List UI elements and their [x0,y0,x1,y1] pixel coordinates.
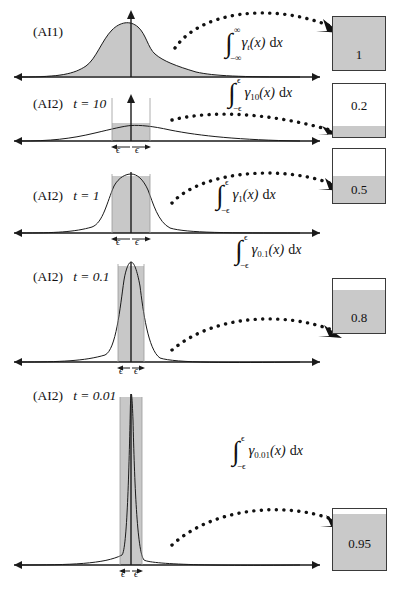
x-axis-left-arrow-ai1 [14,73,22,81]
eps-label-right-t001: ϵ [134,568,138,579]
x-axis-right-arrow-t001 [312,561,320,569]
integral-sign-group-t1: ∫ ϵ −ϵ [216,182,223,209]
panel-label-ai2-t1: (AI2) t = 1 [33,188,100,204]
eps-label-right-t01: ϵ [134,365,138,376]
differential-t01: dx [288,242,301,257]
value-box-ai1: 1 [332,16,386,71]
integral-upper-limit-t10: ϵ [237,75,241,85]
eps-measure-right-arrowhead-t01 [139,366,145,371]
panel-label-prefix-t01: (AI2) [33,269,63,284]
integrand-arg-t10: (x) [259,85,275,100]
y-axis-arrow-ai1 [127,10,135,19]
x-axis-right-arrow-ai1 [312,73,320,81]
integral-lower-limit-t01: −ϵ [240,260,249,270]
value-text-t001: 0.95 [333,536,386,552]
pointer-arc-t001 [172,510,334,545]
integrand-subscript-t01: 0.1 [257,249,268,259]
x-axis-left-arrow-t1 [14,229,22,237]
x-axis-right-arrow-t1 [312,229,320,237]
integral-expression-ai1: ∫ ∞ −∞ γt(x) dx [225,30,283,57]
integral-expression-t001: ∫ ϵ −ϵ γ0.01(x) dx [232,438,303,465]
integral-sign-group-t001: ∫ ϵ −ϵ [232,438,239,465]
eps-label-right-t1: ϵ [135,236,139,247]
differential-t001: dx [290,443,303,458]
figure-canvas: (AI1) ∫ ∞ −∞ γt(x) dx [0,0,395,590]
integral-upper-limit-t001: ϵ [241,433,245,443]
eps-label-left-t1: ϵ [116,236,120,247]
integrand-arg-t1: (x) [243,187,259,202]
panel-label-t-t01: t = 0.1 [73,269,110,284]
value-text-t01: 0.8 [333,310,385,326]
integral-sign-group-t01: ∫ ϵ −ϵ [235,237,242,264]
value-box-t01: 0.8 [332,278,386,334]
integral-lower-limit-t1: −ϵ [221,205,230,215]
integral-sign-group-ai1: ∫ ∞ −∞ [225,30,232,57]
panel-label-ai2-t01: (AI2) t = 0.1 [33,269,110,285]
integral-expression-t1: ∫ ϵ −ϵ γ1(x) dx [216,182,276,209]
panel-label-ai1: (AI1) [33,24,63,40]
differential-t1: dx [262,187,275,202]
panel-label-prefix-ai1: (AI1) [33,24,63,39]
density-curve-t001 [20,394,300,565]
x-axis-left-arrow-t01 [14,358,22,366]
panel-label-ai2-t001: (AI2) t = 0.01 [33,388,116,404]
differential-ai1: dx [269,35,282,50]
value-box-t001: 0.95 [332,508,387,571]
panel-label-t-t10: t = 10 [73,96,106,111]
x-axis-left-arrow-t10 [14,137,22,145]
x-axis-right-arrow-t01 [312,358,320,366]
pointer-arc-t10 [172,114,330,130]
density-curve-t10 [20,125,300,141]
integral-lower-limit-ai1: −∞ [230,53,242,63]
integrand-arg-t001: (x) [270,443,286,458]
pointer-arc-t01 [172,319,332,350]
integral-upper-limit-ai1: ∞ [234,25,240,35]
eps-label-left-t01: ϵ [119,365,123,376]
integrand-subscript-t10: 10 [250,92,259,102]
integral-lower-limit-t001: −ϵ [237,461,246,471]
integrand-subscript-t001: 0.01 [254,450,270,460]
panel-label-prefix-t1: (AI2) [33,188,63,203]
x-axis-right-arrow-t10 [312,137,320,145]
integral-expression-t01: ∫ ϵ −ϵ γ0.1(x) dx [235,237,301,264]
eps-label-left-t001: ϵ [121,568,125,579]
value-text-t1: 0.5 [333,182,385,198]
eps-measure-right-arrowhead-t10 [145,145,151,150]
value-text-t10: 0.2 [333,98,385,114]
value-box-t10: 0.2 [332,83,386,138]
integrand-arg-ai1: (x) [250,35,266,50]
differential-t10: dx [279,85,292,100]
value-text-ai1: 1 [333,47,385,63]
integrand-arg-t01: (x) [269,242,285,257]
y-axis-arrow-t10 [127,94,135,103]
integral-sign-group-t10: ∫ ϵ −ϵ [228,80,235,107]
eps-label-left-t10: ϵ [116,144,120,155]
panel-label-t-t001: t = 0.01 [73,388,116,403]
integral-lower-limit-t10: −ϵ [233,103,242,113]
eps-label-right-t10: ϵ [135,144,139,155]
integral-upper-limit-t1: ϵ [225,177,229,187]
value-box-fill-t10 [333,126,385,137]
panel-label-ai2-t10: (AI2) t = 10 [33,96,106,112]
value-box-t1: 0.5 [332,148,386,204]
panel-label-t-t1: t = 1 [73,188,99,203]
eps-measure-right-arrowhead-t1 [145,237,151,242]
panel-label-prefix-t10: (AI2) [33,96,63,111]
panel-label-prefix-t001: (AI2) [33,388,63,403]
x-axis-left-arrow-t001 [14,561,22,569]
integral-upper-limit-t01: ϵ [244,232,248,242]
integral-expression-t10: ∫ ϵ −ϵ γ10(x) dx [228,80,292,107]
